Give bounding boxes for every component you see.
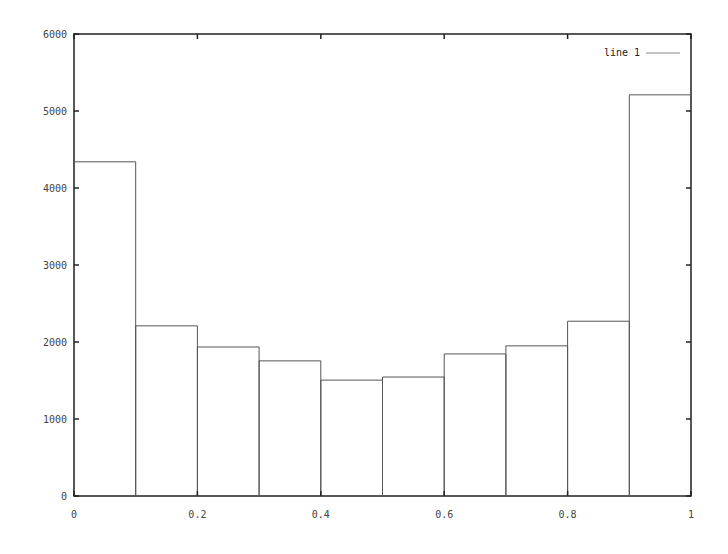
histogram-bar bbox=[197, 347, 259, 496]
histogram-chart: 0100020003000400050006000 00.20.40.60.81… bbox=[0, 0, 728, 554]
x-tick-label: 1 bbox=[688, 509, 694, 520]
y-tick-label: 5000 bbox=[43, 106, 67, 117]
histogram-bar bbox=[136, 326, 198, 496]
histogram-bar bbox=[444, 354, 506, 496]
y-tick-label: 2000 bbox=[43, 337, 67, 348]
histogram-bar bbox=[321, 380, 383, 496]
y-axis: 0100020003000400050006000 bbox=[43, 29, 691, 502]
legend-label: line 1 bbox=[604, 47, 640, 58]
histogram-bar bbox=[259, 361, 321, 496]
histogram-bar bbox=[383, 377, 445, 496]
x-tick-label: 0.4 bbox=[312, 509, 330, 520]
y-tick-label: 6000 bbox=[43, 29, 67, 40]
x-tick-label: 0.2 bbox=[188, 509, 206, 520]
x-tick-label: 0 bbox=[71, 509, 77, 520]
histogram-bar bbox=[629, 95, 691, 496]
legend: line 1 bbox=[604, 47, 680, 58]
histogram-bar bbox=[506, 346, 568, 496]
histogram-bars bbox=[74, 95, 691, 496]
y-tick-label: 4000 bbox=[43, 183, 67, 194]
histogram-bar bbox=[568, 321, 630, 496]
x-tick-label: 0.8 bbox=[559, 509, 577, 520]
histogram-bar bbox=[74, 162, 136, 496]
y-tick-label: 1000 bbox=[43, 414, 67, 425]
y-tick-label: 0 bbox=[61, 491, 67, 502]
x-tick-label: 0.6 bbox=[435, 509, 453, 520]
y-tick-label: 3000 bbox=[43, 260, 67, 271]
